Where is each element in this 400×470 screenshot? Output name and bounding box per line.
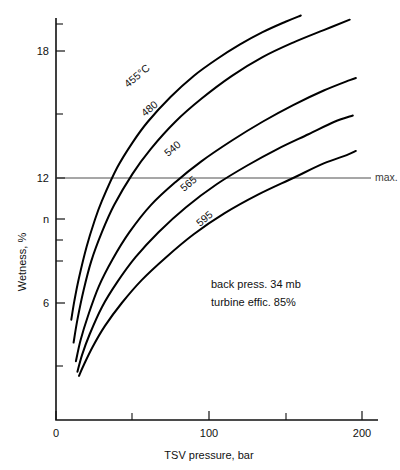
x-tick-label-0: 0 [53,427,59,439]
curve-label-540: 540 [162,138,183,159]
max-reference-label: max. [375,171,398,183]
annotation-back-pressure: back press. 34 mb [211,278,301,290]
x-axis-ticks [56,411,362,420]
curve-label-565: 565 [178,173,199,194]
curve-565 [77,116,352,372]
figure-wetness-vs-tsv-pressure: 18 12 n 6 0 100 200 Wetness, % TSV press… [0,0,400,470]
y-tick-label-18: 18 [37,45,49,57]
annotation-turbine-efficiency: turbine effic. 85% [211,296,296,308]
x-tick-label-100: 100 [200,427,218,439]
y-tick-label-12: 12 [37,172,49,184]
curve-group [71,16,356,376]
x-tick-label-200: 200 [353,427,371,439]
curve-label-455: 455°C [122,61,152,89]
y-tick-label-6: 6 [43,297,49,309]
y-tick-label-9: n [43,213,49,225]
x-axis-title: TSV pressure, bar [164,449,254,461]
curve-label-595: 595 [194,208,215,229]
curve-label-480: 480 [139,98,160,119]
y-axis-title: Wetness, % [16,233,28,292]
y-axis-ticks [56,24,65,366]
curve-480 [74,20,350,343]
chart-canvas: 18 12 n 6 0 100 200 Wetness, % TSV press… [0,0,400,470]
